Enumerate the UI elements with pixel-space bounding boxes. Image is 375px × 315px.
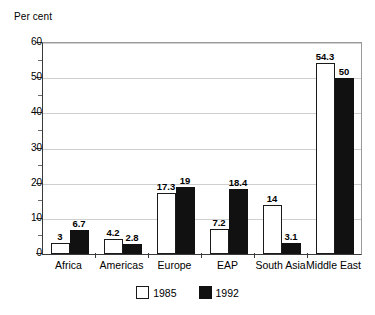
y-axis-tick-group: 6050403020100 xyxy=(0,42,42,254)
x-axis-label-eap: EAP xyxy=(217,258,238,272)
x-axis-label-europe: Europe xyxy=(158,258,192,272)
legend-item-1985[interactable]: 1985 xyxy=(136,286,176,299)
bar-value-label: 4.2 xyxy=(106,228,119,238)
x-axis-label-middle-east: Middle East xyxy=(306,258,361,272)
bar-value-label: 17.3 xyxy=(157,182,176,192)
x-axis-label-americas: Americas xyxy=(100,258,144,272)
white-square-swatch xyxy=(136,286,149,299)
plot-area: 36.74.22.817.3197.218.4143.154.350 xyxy=(42,42,362,255)
bar-middle-east-1992[interactable]: 50 xyxy=(335,78,354,254)
bar-group: 143.1 xyxy=(255,43,308,254)
x-axis-label-south-asia: South Asia xyxy=(255,258,305,272)
y-axis-tick-label: 30 xyxy=(8,143,42,153)
bar-group: 7.218.4 xyxy=(202,43,255,254)
black-square-swatch xyxy=(199,286,212,299)
bar-europe-1992[interactable]: 19 xyxy=(176,187,195,254)
legend-item-1992[interactable]: 1992 xyxy=(199,286,239,299)
bar-africa-1992[interactable]: 6.7 xyxy=(70,230,89,254)
bar-africa-1985[interactable]: 3 xyxy=(51,243,70,254)
y-axis-tick-label: 50 xyxy=(8,72,42,82)
bar-group: 4.22.8 xyxy=(96,43,149,254)
bar-south-asia-1985[interactable]: 14 xyxy=(263,205,282,254)
bar-value-label: 6.7 xyxy=(72,219,85,229)
bar-eap-1985[interactable]: 7.2 xyxy=(210,229,229,254)
chart-legend: 19851992 xyxy=(0,286,375,299)
bar-value-label: 50 xyxy=(339,67,350,77)
y-axis-tick-label: 40 xyxy=(8,107,42,117)
bar-europe-1985[interactable]: 17.3 xyxy=(157,193,176,254)
bar-value-label: 14 xyxy=(267,194,278,204)
y-axis-tick-label: 60 xyxy=(8,37,42,47)
bar-middle-east-1985[interactable]: 54.3 xyxy=(316,63,335,254)
bar-value-label: 19 xyxy=(180,176,191,186)
x-axis-label-africa: Africa xyxy=(55,258,82,272)
bar-value-label: 18.4 xyxy=(229,178,248,188)
y-axis-tick-label: 20 xyxy=(8,178,42,188)
legend-label: 1985 xyxy=(153,287,176,299)
bar-value-label: 3 xyxy=(57,232,62,242)
y-axis-tick-label: 0 xyxy=(8,248,42,258)
bar-eap-1992[interactable]: 18.4 xyxy=(229,189,248,254)
bar-value-label: 54.3 xyxy=(316,52,335,62)
y-axis-title: Per cent xyxy=(14,11,52,23)
legend-label: 1992 xyxy=(216,287,239,299)
x-axis-labels: AfricaAmericasEuropeEAPSouth AsiaMiddle … xyxy=(42,258,361,276)
bar-south-asia-1992[interactable]: 3.1 xyxy=(282,243,301,254)
bar-value-label: 3.1 xyxy=(284,232,297,242)
bar-americas-1985[interactable]: 4.2 xyxy=(104,239,123,254)
bar-group: 54.350 xyxy=(308,43,361,254)
bars-layer: 36.74.22.817.3197.218.4143.154.350 xyxy=(43,43,361,254)
bar-group: 17.319 xyxy=(149,43,202,254)
bar-value-label: 7.2 xyxy=(212,218,225,228)
bar-chart-figure: Per cent 6050403020100 36.74.22.817.3197… xyxy=(0,0,375,315)
bar-group: 36.7 xyxy=(43,43,96,254)
bar-value-label: 2.8 xyxy=(125,233,138,243)
y-axis-tick-label: 10 xyxy=(8,213,42,223)
bar-americas-1992[interactable]: 2.8 xyxy=(123,244,142,254)
